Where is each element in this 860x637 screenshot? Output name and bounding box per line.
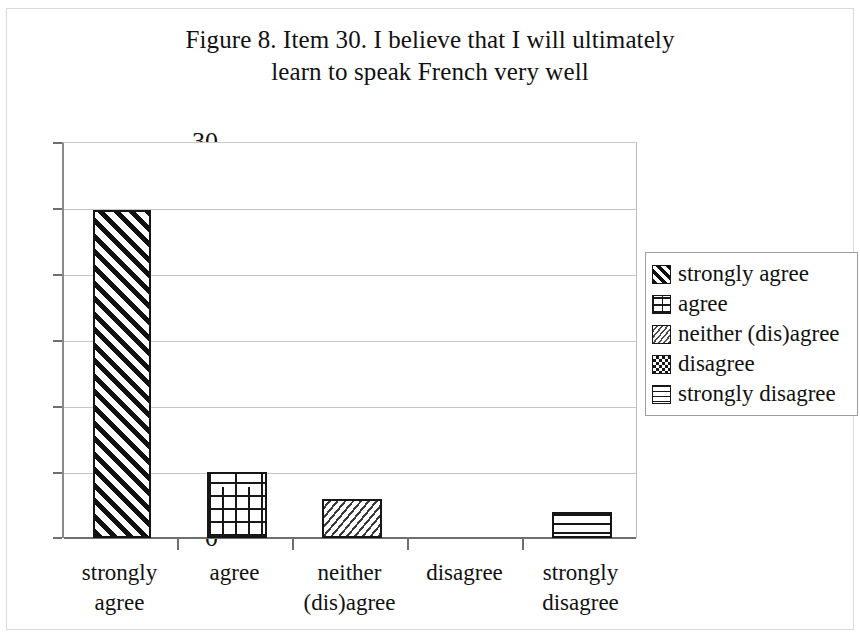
x-axis-label-line-2: disagree <box>521 588 640 618</box>
x-axis-label-neither-disagree: neither (dis)agree <box>290 558 409 618</box>
y-axis-tick-5 <box>53 472 62 474</box>
legend-item-strongly-disagree: strongly disagree <box>652 379 853 409</box>
x-axis-label-line-1: agree <box>210 560 260 585</box>
legend-item-agree: agree <box>652 289 853 319</box>
y-axis-tick-25 <box>53 208 62 210</box>
x-axis-label-line-1: strongly <box>543 560 618 585</box>
x-axis-label-strongly-agree: strongly agree <box>62 558 177 618</box>
x-axis-label-disagree: disagree <box>405 558 524 588</box>
x-axis-tick-3 <box>407 538 409 550</box>
bar-agree <box>207 472 267 538</box>
x-axis-label-agree: agree <box>177 558 292 588</box>
x-axis-label-strongly-disagree: strongly disagree <box>521 558 640 618</box>
x-axis-label-line-1: strongly <box>82 560 157 585</box>
chart-title-line-2: learn to speak French very well <box>120 56 740 88</box>
chart-legend: strongly agree agree neither (dis)agree … <box>645 252 858 416</box>
legend-label-strongly-agree: strongly agree <box>678 262 809 286</box>
x-axis-tick-2 <box>292 538 294 550</box>
y-axis-tick-0 <box>53 537 62 539</box>
bar-slot-agree <box>179 143 294 538</box>
bar-strongly-agree <box>93 210 151 538</box>
legend-item-disagree: disagree <box>652 349 853 379</box>
x-axis-tick-1 <box>177 538 179 550</box>
plot-area <box>62 142 637 538</box>
x-axis-label-line-1: neither <box>318 560 382 585</box>
y-axis-tick-30 <box>53 142 62 144</box>
bar-slot-strongly-agree <box>64 143 179 538</box>
legend-swatch-icon-disagree <box>652 355 671 374</box>
x-axis-label-line-2: (dis)agree <box>290 588 409 618</box>
bar-slot-strongly-disagree <box>524 143 639 538</box>
legend-label-disagree: disagree <box>678 352 755 376</box>
legend-label-strongly-disagree: strongly disagree <box>678 382 836 406</box>
bar-slot-neither-disagree <box>294 143 409 538</box>
legend-swatch-icon-strongly-agree <box>652 265 671 284</box>
bar-slot-disagree <box>409 143 524 538</box>
y-axis-tick-15 <box>53 340 62 342</box>
x-axis-tick-4 <box>522 538 524 550</box>
chart-title-line-1: Figure 8. Item 30. I believe that I will… <box>120 24 740 56</box>
bar-strongly-disagree <box>552 512 612 538</box>
chart-title: Figure 8. Item 30. I believe that I will… <box>120 24 740 88</box>
x-axis-label-line-1: disagree <box>426 560 503 585</box>
bars-layer <box>64 143 636 538</box>
y-axis-tick-10 <box>53 406 62 408</box>
legend-label-neither-disagree: neither (dis)agree <box>678 322 840 346</box>
legend-label-agree: agree <box>678 292 728 316</box>
legend-item-strongly-agree: strongly agree <box>652 259 853 289</box>
legend-swatch-icon-agree <box>652 295 671 314</box>
x-axis-label-line-2: agree <box>62 588 177 618</box>
bar-neither-disagree <box>322 499 382 538</box>
legend-item-neither-disagree: neither (dis)agree <box>652 319 853 349</box>
legend-swatch-icon-strongly-disagree <box>652 385 671 404</box>
legend-swatch-icon-neither-disagree <box>652 325 671 344</box>
figure-container: Figure 8. Item 30. I believe that I will… <box>0 0 860 637</box>
y-axis-tick-20 <box>53 274 62 276</box>
